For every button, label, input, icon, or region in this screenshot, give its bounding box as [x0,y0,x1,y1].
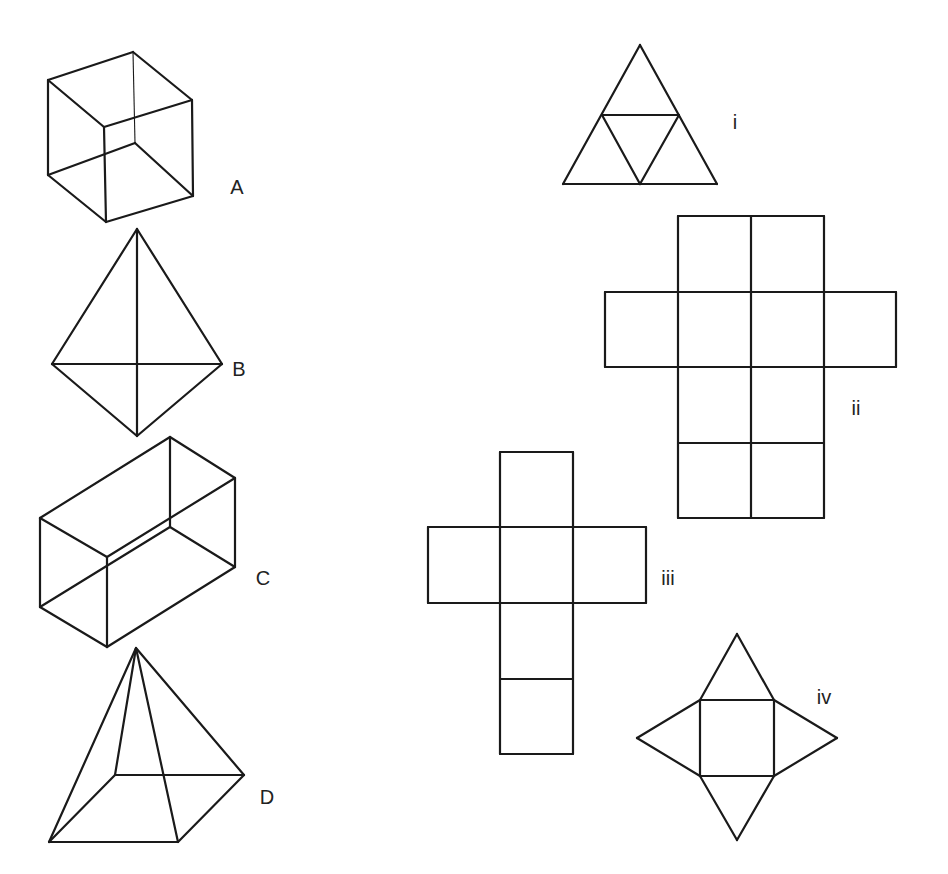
edge-line [52,229,137,364]
edge-line [637,700,700,738]
edge-line [136,648,178,842]
edge-line [107,567,235,647]
edge-line [602,115,640,184]
net-square-pyramid-iv [637,634,837,840]
label-solid-d: D [260,787,274,807]
edge-line [136,648,244,775]
edge-line [774,738,837,776]
net-tetrahedron-i [563,45,717,184]
edge-line [49,648,136,842]
edge-line [48,175,106,222]
edge-line [640,115,679,184]
edge-line [700,776,737,840]
edge-line [106,196,193,222]
edge-line [170,437,235,478]
edge-line [40,437,170,518]
edge-line [137,364,222,436]
edge-line [52,364,137,436]
edge-line [133,52,192,100]
edge-line [104,100,192,127]
label-net-iv: iv [817,687,831,707]
edge-line [700,634,737,700]
edge-line [115,648,136,775]
edge-line [48,143,135,175]
edge-line [133,52,135,143]
label-net-iii: iii [661,568,674,588]
edge-line [737,776,774,840]
label-solid-b: B [232,359,245,379]
label-solid-a: A [230,177,243,197]
edge-line [40,607,107,647]
net-cube-iii [428,452,646,754]
diagram-canvas [0,0,948,874]
solid-cuboid-c [40,437,235,647]
edge-line [637,738,700,776]
edge-line [40,527,170,607]
edge-line [178,775,244,842]
label-net-ii: ii [852,398,861,418]
label-solid-c: C [256,568,270,588]
solid-square-pyramid-d [49,648,244,842]
net-cuboid-ii [605,216,896,518]
edge-line [40,518,107,557]
edge-line [137,229,222,364]
edge-line [135,143,193,196]
edge-line [48,52,133,80]
edge-line [737,634,774,700]
solid-cube-a [48,52,193,222]
edge-line [192,100,193,196]
solid-bipyramid-b [52,229,222,436]
edge-line [49,775,115,842]
edge-line [170,527,235,567]
edge-line [104,127,106,222]
edge-line [48,80,104,127]
label-net-i: i [733,112,737,132]
